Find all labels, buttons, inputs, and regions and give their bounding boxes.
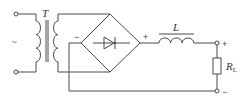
primary-coil: [36, 21, 40, 62]
inductor-label: L: [172, 21, 179, 33]
output-terminal-positive: [215, 41, 219, 45]
inductor: L: [159, 21, 194, 43]
output-terminal-negative: [215, 89, 219, 93]
ac-source-label: ~: [12, 37, 17, 47]
input-terminal-top: [14, 12, 18, 16]
inductor-coil: [159, 38, 194, 43]
ac-input: ~: [12, 12, 36, 74]
resistor-label: RL: [225, 60, 237, 74]
transformer: T: [36, 7, 58, 62]
negative-return-wire: [69, 43, 215, 91]
bridge-rectifier: − +: [74, 14, 148, 72]
resistor-body: [213, 58, 221, 74]
load-resistor: RL: [213, 45, 237, 89]
secondary-coil: [54, 21, 58, 62]
input-wire-top: [18, 14, 36, 21]
secondary-wire-top: [58, 14, 110, 21]
circuit-diagram: ~ T − + L + −: [0, 0, 250, 104]
diode-junction-dot: [114, 42, 116, 44]
transformer-label: T: [42, 7, 49, 19]
output-negative-label: −: [222, 87, 227, 97]
input-wire-bottom: [18, 62, 36, 72]
bridge-negative-label: −: [74, 32, 79, 42]
output-positive-label: +: [222, 39, 227, 49]
input-terminal-bottom: [14, 70, 18, 74]
bridge-positive-label: +: [143, 32, 148, 42]
